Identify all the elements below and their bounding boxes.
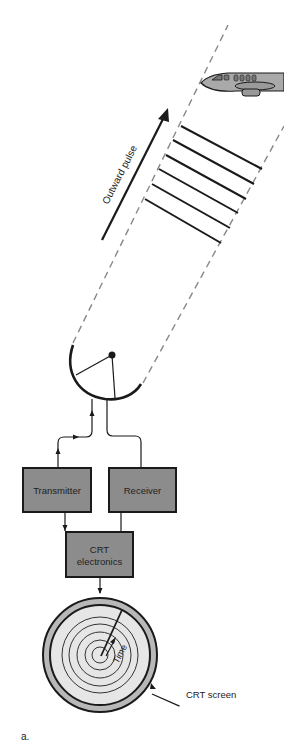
transmitter-label: Transmitter [33,485,81,496]
receiver-block: Receiver [109,468,176,512]
outward-pulse-arrow [102,108,169,240]
crt-screen-pointer [151,694,180,706]
crt-electronics-label-line1: CRT [90,544,110,555]
beam-left-edge [73,25,228,343]
receiver-label: Receiver [124,485,162,496]
pulse-wavefronts [145,126,262,243]
radar-dish-icon [70,345,141,399]
crt-electronics-label-line2: electronics [77,556,123,567]
panel-label: a. [21,731,29,742]
transmitter-block: Transmitter [23,468,91,512]
airplane-icon [201,73,284,96]
outward-pulse-label: Outward pulse [100,143,139,206]
crt-screen [43,598,157,712]
beam-right-edge [143,126,284,383]
crt-electronics-block: CRT electronics [66,532,133,577]
crt-screen-label: CRT screen [186,689,236,700]
radar-diagram: Outward pulse Transmitter [0,0,284,753]
